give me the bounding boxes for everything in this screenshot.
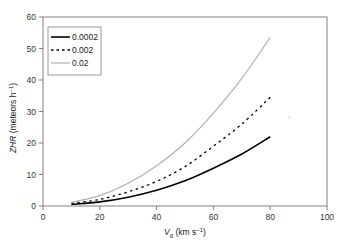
x-tick-label: 80 (265, 212, 275, 222)
legend: 0.0002 0.002 0.02 (48, 27, 101, 75)
y-tick-label: 30 (27, 107, 37, 117)
x-tick-label: 0 (41, 212, 46, 222)
x-tick-label: 100 (320, 212, 334, 222)
y-tick-label: 10 (27, 170, 37, 180)
stray-mark (289, 116, 290, 119)
y-tick-label: 0 (31, 201, 36, 211)
x-axis-label: Vg (km s−1) (164, 227, 206, 238)
y-axis-label: ZHR (meteors h−1) (8, 83, 18, 154)
y-tick-label: 50 (27, 44, 37, 54)
x-tick-label: 20 (95, 212, 105, 222)
legend-label-1: 0.002 (72, 45, 94, 55)
legend-label-2: 0.02 (72, 58, 89, 68)
y-axis-ticks: 0102030405060 (27, 12, 43, 211)
y-tick-label: 40 (27, 75, 37, 85)
x-tick-label: 40 (152, 212, 162, 222)
y-tick-label: 20 (27, 138, 37, 148)
legend-label-0: 0.0002 (72, 32, 98, 42)
y-tick-label: 60 (27, 12, 37, 22)
chart: 0102030405060 020406080100 0.0002 0.002 … (0, 0, 345, 248)
x-axis-ticks: 020406080100 (41, 206, 335, 222)
x-tick-label: 60 (209, 212, 219, 222)
